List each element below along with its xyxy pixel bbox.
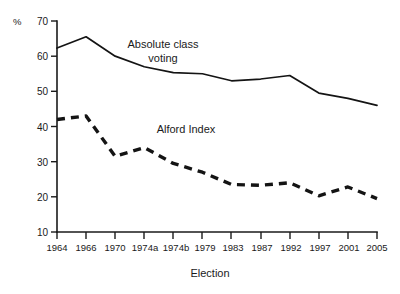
x-tick-label-1987: 1987 (251, 242, 272, 253)
x-tick-label-1974b: 1974b (163, 242, 189, 253)
x-tick-label-1966: 1966 (75, 242, 96, 253)
x-tick-label-1992: 1992 (280, 242, 301, 253)
y-tick-label-30: 30 (37, 157, 49, 168)
line-chart: % 70 60 50 40 30 20 10 (0, 0, 400, 294)
x-tick-label-1997: 1997 (309, 242, 330, 253)
x-tick-label-1983: 1983 (222, 242, 243, 253)
x-tick-label-1964: 1964 (46, 242, 67, 253)
y-tick-label-50: 50 (37, 86, 49, 97)
absolute-class-voting-label-line1: Absolute class (128, 38, 199, 50)
x-tick-label-1979: 1979 (194, 242, 215, 253)
alford-index-label: Alford Index (157, 123, 216, 135)
chart-figure: % 70 60 50 40 30 20 10 (0, 0, 400, 294)
x-tick-label-2001: 2001 (338, 242, 359, 253)
y-tick-label-40: 40 (37, 122, 49, 133)
y-tick-label-10: 10 (37, 227, 49, 238)
y-tick-label-70: 70 (37, 16, 49, 27)
y-tick-label-60: 60 (37, 51, 49, 62)
y-tick-label-20: 20 (37, 192, 49, 203)
y-axis-unit-label: % (13, 16, 22, 27)
x-tick-label-1970: 1970 (104, 242, 125, 253)
x-tick-label-1974a: 1974a (132, 242, 159, 253)
x-tick-label-2005: 2005 (366, 242, 387, 253)
absolute-class-voting-label-line2: voting (148, 52, 177, 64)
x-axis-title: Election (190, 267, 229, 279)
